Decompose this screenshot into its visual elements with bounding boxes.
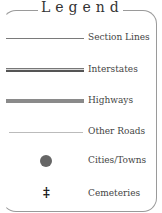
other-road-line-symbol	[9, 132, 83, 133]
legend-label: Cemeteries	[88, 188, 140, 198]
legend-title: Legend	[38, 0, 123, 18]
interstate-line-symbol	[6, 68, 84, 72]
legend-item-interstates: Interstates	[0, 64, 162, 78]
city-dot-icon	[40, 155, 52, 167]
highway-line-symbol	[6, 99, 84, 103]
legend-label: Section Lines	[88, 32, 150, 42]
legend-label: Interstates	[88, 64, 138, 74]
legend-label: Other Roads	[88, 126, 145, 136]
cemetery-cross-icon: ‡	[43, 186, 50, 200]
legend-item-highways: Highways	[0, 95, 162, 109]
legend-item-section-lines: Section Lines	[0, 32, 162, 46]
legend-item-other-roads: Other Roads	[0, 126, 162, 140]
legend-label: Highways	[88, 95, 133, 105]
legend-item-cities: Cities/Towns	[0, 155, 162, 169]
legend-item-cemeteries: ‡ Cemeteries	[0, 188, 162, 202]
section-line-symbol	[6, 38, 84, 39]
legend-label: Cities/Towns	[88, 155, 146, 165]
